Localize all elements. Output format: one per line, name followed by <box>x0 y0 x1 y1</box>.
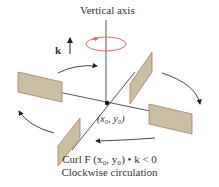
paddle-upper-right <box>130 52 152 104</box>
curl-caption: Curl F (x₀, y₀) • k < 0 <box>0 153 219 165</box>
arm-diagonal <box>72 72 135 150</box>
circulation-arrow-left <box>19 111 54 133</box>
vertical-axis-label: Vertical axis <box>80 4 135 16</box>
circulation-arrow-top <box>58 66 97 73</box>
circulation-arrow-bottom <box>96 138 155 141</box>
paddle-right <box>149 104 192 134</box>
paddle-left <box>18 72 62 102</box>
circulation-arrow-right <box>162 73 200 104</box>
circulation-caption: Clockwise circulation <box>0 166 219 178</box>
center-point <box>105 101 109 105</box>
k-vector-label: k <box>55 44 61 56</box>
point-label: (x₀, y₀) <box>97 113 125 124</box>
